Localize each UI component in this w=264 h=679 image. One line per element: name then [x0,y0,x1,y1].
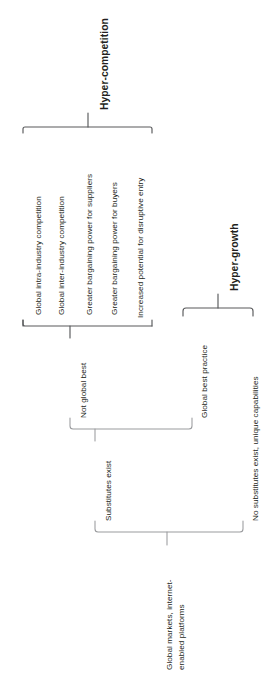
root-node-label-line1: Global markets, internet- [165,579,176,670]
driver-item-increased-potential-disruptive-entry: Increased potential for disruptive entry [136,178,146,318]
branch-label-global-best-practice: Global best practice [200,345,210,418]
driver-item-greater-bargaining-power-buyers: Greater bargaining power for buyers [110,182,120,315]
hyper-competition-brace [23,113,152,133]
branch-label-substitutes-exist: Substitutes exist [104,461,114,521]
diagram-connector-lines [0,0,264,679]
root-brace [95,521,243,545]
outcome-label-hyper-competition: Hyper-competition [100,18,110,110]
not-global-best-brace [23,320,152,338]
substitutes-exist-brace [70,418,192,441]
hyper-growth-brace [183,294,253,316]
driver-item-global-intra-industry-competition: Global intra-industry competition [34,196,44,315]
outcome-label-hyper-growth: Hyper-growth [230,223,240,291]
branch-label-no-substitutes-exist: No substitutes exist, unique capabilitie… [251,376,261,521]
driver-item-global-inter-industry-competition: Global inter-industry competition [57,196,67,315]
root-node-label-line2: enabled platforms [177,604,188,670]
driver-item-greater-bargaining-power-suppliers: Greater bargaining power for suppliers [85,174,95,315]
branch-label-not-global-best: Not global best [79,363,89,418]
tree-diagram: Hyper-competition Global intra-industry … [0,0,264,679]
